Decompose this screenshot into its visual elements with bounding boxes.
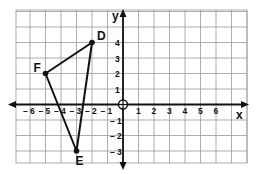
point-label-d: D xyxy=(97,29,106,43)
y-tick-label: – 2 xyxy=(110,131,122,141)
coordinate-plane-figure: yx – 6– 5– 4– 3– 2– 11234564321– 1– 2– 3… xyxy=(0,0,261,174)
points: DFE xyxy=(34,29,107,169)
triangle-def xyxy=(46,43,93,152)
point-label-f: F xyxy=(34,61,41,75)
y-tick-label: 4 xyxy=(115,38,120,48)
point-f xyxy=(43,71,49,77)
y-axis-label: y xyxy=(112,9,119,23)
point-d xyxy=(89,40,95,46)
y-axis-down-arrow-icon xyxy=(120,162,127,170)
x-tick-label: – 2 xyxy=(85,106,97,116)
x-tick-label: 3 xyxy=(167,106,172,116)
x-tick-label: – 5 xyxy=(39,106,51,116)
y-tick-label: – 3 xyxy=(110,147,122,157)
x-axis-left-arrow-icon xyxy=(8,101,16,108)
segment-de xyxy=(77,43,93,152)
x-tick-label: – 1 xyxy=(101,106,113,116)
y-tick-label: 1 xyxy=(115,85,120,95)
x-tick-label: – 3 xyxy=(70,106,82,116)
axes: yx xyxy=(8,9,249,170)
point-label-e: E xyxy=(76,154,84,168)
x-tick-label: 6 xyxy=(214,106,219,116)
y-tick-label: 2 xyxy=(115,69,120,79)
x-axis-right-arrow-icon xyxy=(241,101,249,108)
x-tick-label: 1 xyxy=(136,106,141,116)
coordinate-plane: yx – 6– 5– 4– 3– 2– 11234564321– 1– 2– 3… xyxy=(0,0,261,174)
x-axis-label: x xyxy=(236,108,243,122)
y-tick-label: 3 xyxy=(115,54,120,64)
point-e xyxy=(74,148,80,154)
x-tick-label: 4 xyxy=(183,106,188,116)
x-tick-label: 5 xyxy=(198,106,203,116)
tick-labels: – 6– 5– 4– 3– 2– 11234564321– 1– 2– 3 xyxy=(23,38,219,157)
x-tick-label: – 6 xyxy=(23,106,35,116)
y-tick-label: – 1 xyxy=(110,116,122,126)
x-tick-label: 2 xyxy=(152,106,157,116)
